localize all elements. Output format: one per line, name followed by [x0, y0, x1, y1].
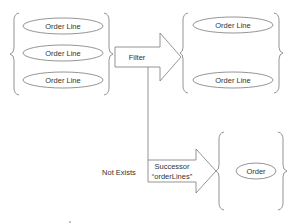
source-item-1-label: Order Line	[45, 22, 80, 31]
source-item-2: Order Line	[23, 45, 103, 61]
result-item-2: Order Line	[193, 72, 273, 88]
diagram-canvas: Order Line Order Line Order Line Filter …	[0, 0, 293, 224]
target-group: Order	[216, 132, 287, 210]
filter-arrow-label: Filter	[129, 53, 146, 62]
result-item-1-label: Order Line	[215, 21, 250, 30]
source-left-brace	[10, 13, 19, 95]
source-right-brace	[104, 13, 113, 95]
source-item-1: Order Line	[23, 18, 103, 34]
source-item-3: Order Line	[23, 72, 103, 88]
stray-dot	[69, 221, 70, 222]
not-exists-label: Not Exists	[102, 168, 136, 177]
target-right-brace	[278, 132, 287, 210]
target-item-1-label: Order	[246, 167, 266, 176]
source-item-2-label: Order Line	[45, 49, 80, 58]
target-item-1: Order	[236, 163, 276, 179]
successor-arrow: Successor “orderLines”	[148, 149, 216, 193]
source-item-3-label: Order Line	[45, 76, 80, 85]
successor-arrow-label-line1: Successor	[154, 162, 190, 171]
source-group: Order Line Order Line Order Line	[10, 13, 113, 95]
result-left-brace	[180, 13, 188, 93]
successor-arrow-label-line2: “orderLines”	[152, 172, 193, 181]
result-item-1: Order Line	[193, 17, 273, 33]
result-item-2-label: Order Line	[215, 76, 250, 85]
target-left-brace	[216, 132, 224, 210]
result-right-brace	[274, 13, 283, 93]
result-group: Order Line Order Line	[180, 13, 283, 93]
